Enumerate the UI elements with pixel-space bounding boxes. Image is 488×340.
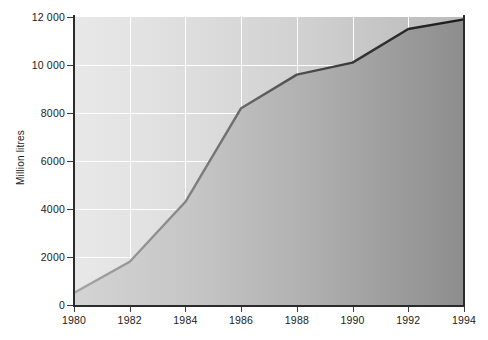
x-tick-label: 1986 — [218, 314, 264, 326]
plot-right-border — [463, 15, 465, 307]
area-chart: 12 000 10 000 8000 6000 4000 2000 0 1980… — [0, 0, 488, 340]
y-tick-label: 12 000 — [7, 12, 65, 22]
y-axis-tick-labels: 12 000 10 000 8000 6000 4000 2000 0 — [0, 0, 65, 340]
y-tick-label: 2000 — [7, 252, 65, 262]
y-tick-mark — [67, 17, 73, 18]
x-tick-mark — [464, 307, 465, 312]
y-tick-label: 10 000 — [7, 60, 65, 70]
x-tick-label: 1982 — [107, 314, 153, 326]
x-tick-label: 1980 — [51, 314, 97, 326]
x-axis-line — [73, 305, 465, 307]
x-tick-mark — [297, 307, 298, 312]
x-tick-mark — [353, 307, 354, 312]
x-tick-mark — [130, 307, 131, 312]
y-tick-mark — [67, 305, 73, 306]
series-area-million-litres — [74, 17, 464, 305]
x-tick-mark — [241, 307, 242, 312]
y-tick-mark — [67, 161, 73, 162]
x-tick-mark — [74, 307, 75, 312]
x-tick-mark — [408, 307, 409, 312]
x-tick-label: 1984 — [162, 314, 208, 326]
y-tick-mark — [67, 257, 73, 258]
y-tick-mark — [67, 209, 73, 210]
y-tick-mark — [67, 65, 73, 66]
y-axis-line — [73, 15, 75, 307]
x-tick-label: 1990 — [330, 314, 376, 326]
y-axis-title: Million litres — [15, 103, 26, 213]
x-tick-label: 1994 — [441, 314, 487, 326]
x-tick-label: 1992 — [385, 314, 431, 326]
x-tick-label: 1988 — [274, 314, 320, 326]
y-tick-label: 0 — [7, 300, 65, 310]
x-tick-mark — [185, 307, 186, 312]
plot-area — [74, 17, 464, 305]
y-tick-mark — [67, 113, 73, 114]
